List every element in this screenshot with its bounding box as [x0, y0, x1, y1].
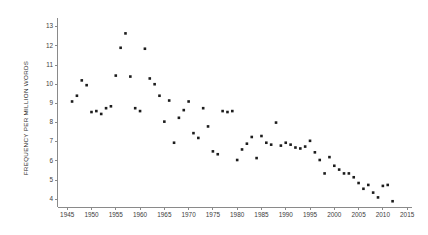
- data-point: [377, 196, 380, 199]
- data-point: [309, 140, 312, 143]
- data-point: [148, 77, 151, 80]
- data-point: [280, 144, 283, 147]
- x-tick-label: 2000: [327, 211, 342, 218]
- data-point: [260, 135, 263, 138]
- data-point: [153, 83, 156, 86]
- data-point: [129, 75, 132, 78]
- data-point: [284, 141, 287, 144]
- data-point: [158, 94, 161, 97]
- data-point: [391, 200, 394, 203]
- x-tick-label: 1995: [303, 211, 318, 218]
- data-point: [323, 172, 326, 175]
- scatter-chart: 45678910111213 1945195019551960196519701…: [0, 0, 428, 235]
- data-point: [197, 137, 200, 140]
- data-point: [236, 159, 239, 162]
- data-point: [95, 110, 98, 113]
- data-point: [216, 153, 219, 156]
- data-point: [105, 107, 108, 110]
- data-point: [202, 107, 205, 110]
- data-point: [386, 184, 389, 187]
- data-point: [275, 121, 278, 124]
- data-point: [187, 100, 190, 103]
- data-point: [362, 187, 365, 190]
- x-tick-label: 1955: [109, 211, 124, 218]
- data-point: [255, 157, 258, 160]
- y-tick-label: 12: [46, 42, 54, 49]
- data-point: [80, 79, 83, 82]
- x-tick-label: 1960: [133, 211, 148, 218]
- data-point: [348, 172, 351, 175]
- y-tick-label: 6: [49, 157, 53, 164]
- data-point: [119, 46, 122, 49]
- data-point: [289, 143, 292, 146]
- data-point: [357, 182, 360, 185]
- data-point: [246, 142, 249, 145]
- data-points: [71, 32, 394, 202]
- data-point: [85, 84, 88, 87]
- data-point: [182, 109, 185, 112]
- x-tick-label: 1980: [230, 211, 245, 218]
- data-point: [192, 132, 195, 135]
- data-point: [100, 113, 103, 116]
- y-tick-label: 4: [49, 195, 53, 202]
- data-point: [144, 47, 147, 50]
- data-point: [382, 185, 385, 188]
- data-point: [328, 156, 331, 159]
- x-tick-label: 2005: [351, 211, 366, 218]
- data-point: [226, 111, 229, 114]
- data-point: [178, 117, 181, 120]
- data-point: [367, 184, 370, 187]
- x-tick-label: 1970: [182, 211, 197, 218]
- x-axis: 1945195019551960196519701975198019851990…: [58, 207, 415, 218]
- data-point: [333, 164, 336, 167]
- y-tick-label: 8: [49, 118, 53, 125]
- y-tick-label: 10: [46, 80, 54, 87]
- data-point: [114, 74, 117, 77]
- data-point: [124, 32, 127, 35]
- y-tick-label: 11: [46, 61, 53, 68]
- data-point: [110, 105, 113, 108]
- data-point: [71, 100, 74, 103]
- x-tick-label: 1965: [157, 211, 172, 218]
- data-point: [231, 110, 234, 113]
- data-point: [173, 141, 176, 144]
- y-tick-label: 13: [46, 22, 54, 29]
- x-tick-label: 1950: [84, 211, 99, 218]
- data-point: [314, 151, 317, 154]
- data-point: [338, 168, 341, 171]
- y-tick-label: 5: [49, 176, 53, 183]
- data-point: [352, 176, 355, 179]
- x-tick-label: 1990: [279, 211, 294, 218]
- data-point: [134, 107, 137, 110]
- data-point: [168, 99, 171, 102]
- data-point: [90, 111, 93, 114]
- data-point: [318, 159, 321, 162]
- y-tick-label: 9: [49, 99, 53, 106]
- data-point: [241, 148, 244, 151]
- data-point: [343, 172, 346, 175]
- data-point: [221, 110, 224, 113]
- data-point: [265, 141, 268, 144]
- x-tick-label: 2010: [376, 211, 391, 218]
- data-point: [304, 145, 307, 148]
- data-point: [372, 191, 375, 194]
- x-tick-label: 2015: [400, 211, 415, 218]
- y-tick-label: 7: [49, 137, 53, 144]
- data-point: [299, 147, 302, 150]
- x-tick-label: 1985: [254, 211, 269, 218]
- data-point: [294, 146, 297, 149]
- data-point: [212, 150, 215, 153]
- data-point: [139, 110, 142, 113]
- x-tick-label: 1945: [60, 211, 75, 218]
- data-point: [76, 94, 79, 97]
- data-point: [163, 120, 166, 123]
- data-point: [250, 136, 253, 139]
- plot-area: 45678910111213 1945195019551960196519701…: [0, 0, 428, 235]
- x-tick-label: 1975: [206, 211, 221, 218]
- data-point: [207, 125, 210, 128]
- y-axis: 45678910111213: [46, 18, 58, 207]
- data-point: [270, 143, 273, 146]
- y-axis-title: FREQUENCY PER MILLION WORDS: [22, 61, 29, 176]
